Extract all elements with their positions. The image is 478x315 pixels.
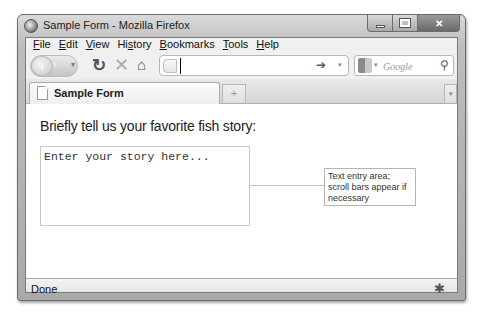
menu-accel: E xyxy=(59,38,66,50)
close-icon: ✕ xyxy=(435,18,443,29)
menu-label: dit xyxy=(66,38,78,50)
chevron-down-icon: ▾ xyxy=(374,61,378,68)
window-controls: ✕ xyxy=(367,15,460,32)
forward-button[interactable]: › xyxy=(53,58,57,70)
story-textarea[interactable]: Enter your story here... xyxy=(40,146,250,226)
menu-label: ile xyxy=(40,38,51,50)
menu-tools[interactable]: Tools xyxy=(219,38,253,52)
menu-label: elp xyxy=(264,38,279,50)
url-input[interactable] xyxy=(180,58,310,74)
list-all-tabs-button[interactable]: ▾ xyxy=(444,84,457,103)
reload-icon: ↻ xyxy=(92,56,106,75)
chevron-down-icon: ▾ xyxy=(71,60,75,69)
stop-icon: ✕ xyxy=(114,55,129,75)
menu-file[interactable]: File xyxy=(29,38,55,52)
url-history-dropdown[interactable]: ▾ xyxy=(338,61,342,69)
chevron-down-icon: ▾ xyxy=(449,90,453,97)
menu-accel: F xyxy=(33,38,40,50)
close-button[interactable]: ✕ xyxy=(418,15,460,32)
status-bar: Done ✱ xyxy=(26,278,457,292)
search-bar: ▾ ⚲ xyxy=(354,55,454,76)
history-dropdown-button[interactable]: ▾ xyxy=(71,60,75,69)
tab-bar: Sample Form + ▾ xyxy=(26,79,457,104)
title-bar[interactable]: Sample Form - Mozilla Firefox ✕ xyxy=(18,15,465,37)
plus-icon: + xyxy=(231,87,237,99)
home-button[interactable]: ⌂ xyxy=(137,56,146,73)
firefox-icon xyxy=(24,19,38,33)
search-button[interactable]: ⚲ xyxy=(440,58,449,72)
home-icon: ⌂ xyxy=(137,56,146,73)
new-tab-button[interactable]: + xyxy=(222,84,246,103)
menu-history[interactable]: History xyxy=(113,38,155,52)
page-identity-icon[interactable] xyxy=(163,59,177,73)
reload-button[interactable]: ↻ xyxy=(92,55,106,76)
address-bar: ➔ ▾ xyxy=(159,55,349,76)
menu-label: iew xyxy=(93,38,110,50)
tab-label: Sample Form xyxy=(54,87,124,99)
back-button[interactable]: ‹ xyxy=(31,56,53,76)
menu-help[interactable]: Help xyxy=(252,38,283,52)
menu-accel: V xyxy=(86,38,93,50)
search-engine-icon[interactable] xyxy=(358,58,372,73)
go-arrow-icon: ➔ xyxy=(316,58,326,72)
menu-bookmarks[interactable]: Bookmarks xyxy=(156,38,219,52)
page-icon xyxy=(37,86,48,100)
forward-arrow-icon: › xyxy=(53,58,57,70)
menu-label: ools xyxy=(228,38,248,50)
minimize-icon xyxy=(376,25,385,28)
back-forward-group: ‹ › ▾ xyxy=(30,55,78,77)
menu-bar: File Edit View History Bookmarks Tools H… xyxy=(26,38,457,52)
menu-label: Hi xyxy=(117,38,127,50)
go-button[interactable]: ➔ xyxy=(316,58,326,72)
navigation-toolbar: ‹ › ▾ ↻ ✕ ⌂ ➔ ▾ ▾ ⚲ xyxy=(26,52,457,79)
annotation-callout: Text entry area; scroll bars appear if n… xyxy=(324,168,416,206)
chevron-down-icon: ▾ xyxy=(338,61,342,68)
addon-bar-icon[interactable]: ✱ xyxy=(434,281,445,296)
back-arrow-icon: ‹ xyxy=(40,59,44,74)
search-engine-dropdown[interactable]: ▾ xyxy=(374,61,378,69)
maximize-button[interactable] xyxy=(393,15,418,32)
browser-window: Sample Form - Mozilla Firefox ✕ File Edi… xyxy=(17,14,466,301)
search-input[interactable] xyxy=(383,59,433,73)
window-title: Sample Form - Mozilla Firefox xyxy=(43,19,190,31)
tab-sample-form[interactable]: Sample Form xyxy=(29,82,220,104)
callout-leader-line xyxy=(250,185,324,186)
magnifier-icon: ⚲ xyxy=(440,58,449,72)
page-content: Briefly tell us your favorite fish story… xyxy=(26,104,457,278)
stop-button[interactable]: ✕ xyxy=(114,54,129,76)
story-prompt-label: Briefly tell us your favorite fish story… xyxy=(40,118,256,134)
maximize-icon xyxy=(400,19,410,27)
browser-client: File Edit View History Bookmarks Tools H… xyxy=(25,37,458,293)
status-text: Done xyxy=(31,283,57,295)
menu-label: tory xyxy=(133,38,151,50)
menu-label: ookmarks xyxy=(167,38,215,50)
menu-edit[interactable]: Edit xyxy=(55,38,82,52)
minimize-button[interactable] xyxy=(367,15,393,32)
menu-view[interactable]: View xyxy=(82,38,114,52)
menu-accel: B xyxy=(160,38,167,50)
